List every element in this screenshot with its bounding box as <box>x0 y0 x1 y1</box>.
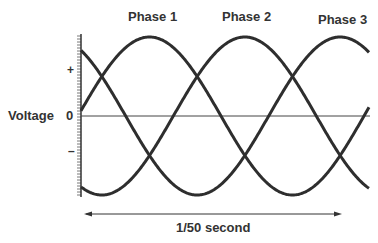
zero-tick-label: 0 <box>66 108 73 123</box>
period-label: 1/50 second <box>176 220 250 235</box>
waveform-plot <box>0 0 378 243</box>
phase-1-label: Phase 1 <box>128 9 177 24</box>
voltage-axis-label: Voltage <box>8 108 54 123</box>
phase-3-label: Phase 3 <box>318 12 367 27</box>
period-arrow <box>84 212 342 217</box>
plus-tick-label: + <box>67 63 74 77</box>
arrow-left-icon <box>84 212 92 217</box>
phase-2-label: Phase 2 <box>222 9 271 24</box>
minus-tick-label: – <box>68 144 75 158</box>
arrow-right-icon <box>334 212 342 217</box>
